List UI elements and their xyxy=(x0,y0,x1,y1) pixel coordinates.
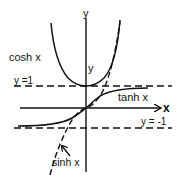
sinh-pointer-arrow xyxy=(62,146,70,156)
sinh-curve xyxy=(50,22,120,175)
asymptote-y-1-label: y =1 xyxy=(14,75,34,86)
inner-y-label: y xyxy=(88,62,94,74)
x-axis-label: x xyxy=(163,101,170,115)
hyperbolic-functions-diagram: y x y cosh x tanh x sinh x y =1 y = -1 xyxy=(0,0,179,189)
sinh-label: sinh x xyxy=(52,156,80,168)
cosh-label: cosh x xyxy=(9,51,41,63)
asymptote-y-minus-1-label: y = -1 xyxy=(141,116,167,127)
tanh-label: tanh x xyxy=(118,91,148,103)
y-axis-label: y xyxy=(83,7,89,19)
